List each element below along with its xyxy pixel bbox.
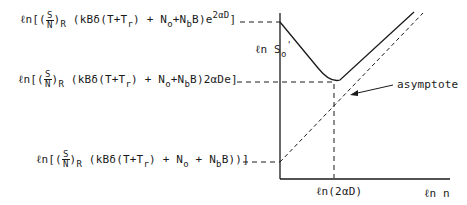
y-axis-label: ℓn So' xyxy=(255,40,292,59)
curve xyxy=(280,12,414,81)
asymptote-label: asymptote xyxy=(397,78,458,91)
annotation-arrow xyxy=(353,85,393,94)
x-tick-label: ℓn(2αD) xyxy=(316,185,362,198)
label-bottom: ℓn[(SN)R (kBδ(T+Tr) + No + NbB))] xyxy=(36,150,249,169)
x-axis-label: ℓn n xyxy=(424,187,450,200)
label-min: ℓn[(SN)R (kBδ(T+Tr) + No+NbB)2αDe] xyxy=(18,70,238,89)
plot-area xyxy=(0,0,467,205)
label-top: ℓn[(SN)R (kBδ(T+Tr) + No+NbB)e2αD] xyxy=(20,10,236,30)
arrow-head-icon xyxy=(350,90,358,96)
